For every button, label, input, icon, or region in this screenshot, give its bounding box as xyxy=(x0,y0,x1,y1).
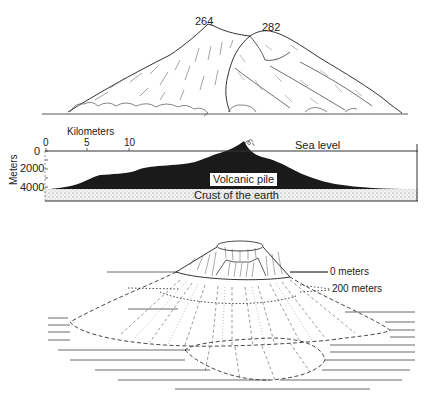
x-tick-5: 5 xyxy=(84,138,90,148)
y-tick-4000: 4000 xyxy=(20,182,44,193)
peak-label-282: 282 xyxy=(262,22,280,33)
y-tick-0: 0 xyxy=(34,146,40,157)
crust-label: Crust of the earth xyxy=(194,190,279,201)
y-tick-2000: 2000 xyxy=(20,163,44,174)
submarine-cone xyxy=(48,241,415,389)
eruption-icon xyxy=(245,140,254,146)
x-axis-title: Kilometers xyxy=(67,127,114,137)
level-label-200m: 200 meters xyxy=(332,284,382,294)
island-sketch xyxy=(42,24,408,116)
x-tick-10: 10 xyxy=(124,138,135,148)
volcanic-pile-label: Volcanic pile xyxy=(210,173,277,186)
y-axis-title: Meters xyxy=(9,154,19,185)
peak-label-264: 264 xyxy=(195,16,213,27)
sea-level-label: Sea level xyxy=(295,140,340,151)
level-label-0m: 0 meters xyxy=(330,267,369,277)
x-tick-0: 0 xyxy=(43,138,49,148)
